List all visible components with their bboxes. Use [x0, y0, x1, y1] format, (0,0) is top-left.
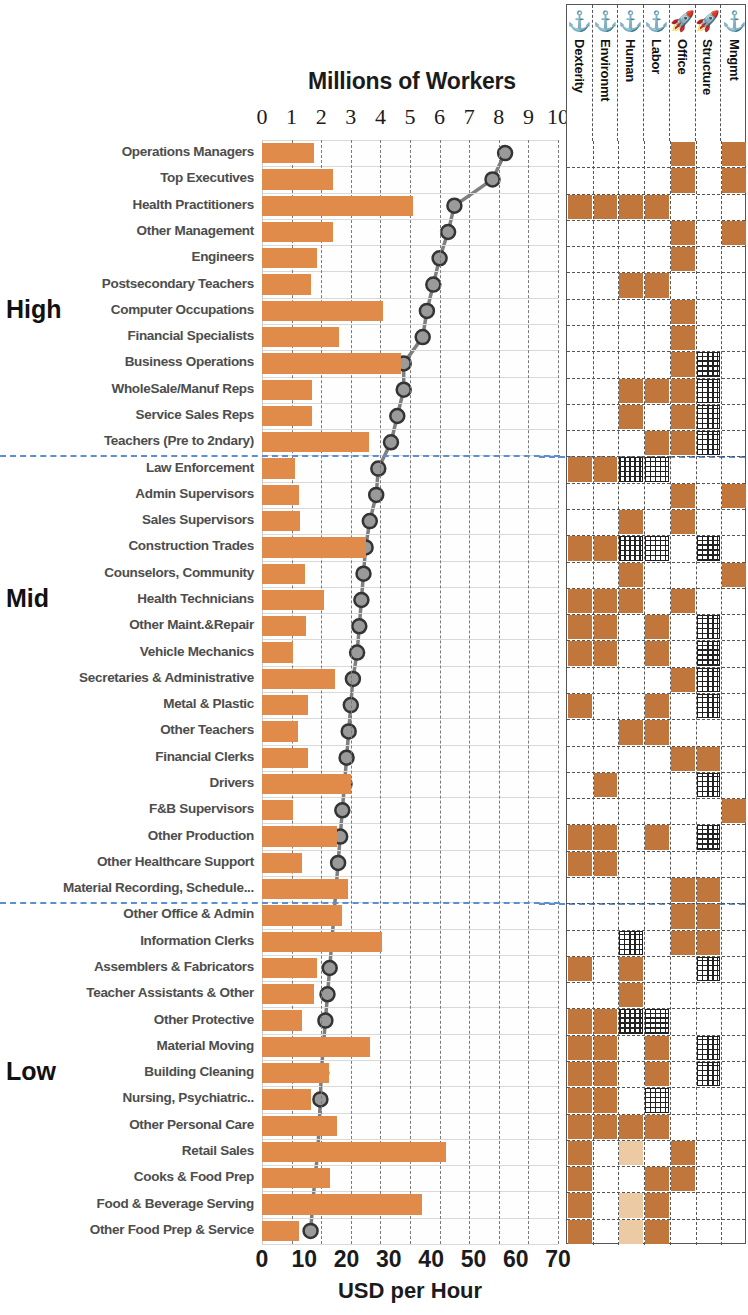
- category-label: Other Food Prep & Service: [0, 1222, 254, 1237]
- attribute-matrix-grid: [567, 141, 745, 1245]
- matrix-column-label: Environmt: [598, 39, 613, 101]
- category-label: Retail Sales: [0, 1143, 254, 1158]
- plot-gridline-vertical: [558, 140, 559, 1244]
- category-label: Assemblers & Fabricators: [0, 959, 254, 974]
- matrix-cell-fill: [645, 1062, 669, 1086]
- category-label: Other Teachers: [0, 722, 254, 737]
- matrix-cell-fill: [722, 168, 746, 192]
- section-divider: [0, 902, 560, 904]
- bar: [262, 642, 293, 662]
- matrix-cell-fill: [568, 1009, 592, 1033]
- matrix-cell-fill-light: [619, 1193, 643, 1217]
- plot-gridline-horizontal: [262, 1244, 558, 1245]
- matrix-cell-fill: [568, 615, 592, 639]
- line-marker: [363, 514, 377, 528]
- matrix-cell-fill: [619, 379, 643, 403]
- bar: [262, 537, 366, 557]
- line-marker: [420, 304, 434, 318]
- category-label: Material Recording, Schedule...: [0, 880, 254, 895]
- bar: [262, 1168, 330, 1188]
- matrix-column-label: Office: [675, 39, 690, 75]
- matrix-cell-fill: [671, 589, 695, 613]
- line-marker: [390, 409, 404, 423]
- attribute-matrix-header: ⚓Dexterity⚓Environmt⚓Human⚓Labor🚀Office🚀…: [567, 5, 745, 141]
- line-marker: [416, 330, 430, 344]
- matrix-cell-fill: [671, 405, 695, 429]
- bar: [262, 800, 293, 820]
- matrix-column-header-labor: ⚓Labor: [644, 5, 670, 141]
- line-marker: [397, 383, 411, 397]
- top-axis-tick: 7: [464, 104, 475, 130]
- category-label: Engineers: [0, 249, 254, 264]
- matrix-column-label: Human: [623, 39, 638, 82]
- top-axis-ticks: 012345678910: [262, 104, 558, 130]
- category-label: Operations Managers: [0, 144, 254, 159]
- bottom-axis-tick: 0: [256, 1246, 269, 1273]
- bar: [262, 853, 302, 873]
- line-marker: [371, 462, 385, 476]
- matrix-cell-fill: [568, 694, 592, 718]
- plot-area: [262, 140, 558, 1244]
- matrix-cell-fill: [568, 1036, 592, 1060]
- anchor-icon: ⚓: [722, 5, 747, 37]
- matrix-cell-fill: [645, 641, 669, 665]
- matrix-cell-fill: [671, 379, 695, 403]
- bar: [262, 1010, 302, 1030]
- bar: [262, 721, 298, 741]
- matrix-cell-fill: [671, 484, 695, 508]
- matrix-cell-fill: [645, 1036, 669, 1060]
- category-label: Metal & Plastic: [0, 696, 254, 711]
- category-label: Business Operations: [0, 354, 254, 369]
- matrix-gridline-horizontal: [567, 982, 745, 983]
- matrix-cell-fill: [568, 1115, 592, 1139]
- matrix-column-label: Dexterity: [572, 39, 587, 93]
- top-axis-tick: 3: [345, 104, 356, 130]
- matrix-cell-fill: [568, 1167, 592, 1191]
- matrix-cell-fill: [645, 1220, 669, 1244]
- bottom-axis-tick: 10: [291, 1246, 317, 1273]
- line-marker: [346, 672, 360, 686]
- category-label: Postsecondary Teachers: [0, 276, 254, 291]
- matrix-cell-fill: [671, 352, 695, 376]
- category-label: Other Maint.&Repair: [0, 617, 254, 632]
- bar: [262, 905, 342, 925]
- matrix-cell-fill: [671, 431, 695, 455]
- bottom-axis-title: USD per Hour: [262, 1278, 558, 1304]
- matrix-gridline-horizontal: [567, 509, 745, 510]
- category-label: Top Executives: [0, 170, 254, 185]
- matrix-cell-fill: [594, 1115, 618, 1139]
- matrix-cell-hatch: [697, 641, 721, 665]
- matrix-cell-fill: [697, 931, 721, 955]
- matrix-cell-fill: [594, 1062, 618, 1086]
- matrix-cell-fill: [645, 195, 669, 219]
- top-axis-title: Millions of Workers: [262, 68, 562, 95]
- matrix-cell-fill: [619, 720, 643, 744]
- matrix-column-header-dexterity: ⚓Dexterity: [567, 5, 593, 141]
- matrix-cell-fill: [671, 1141, 695, 1165]
- matrix-cell-fill: [722, 142, 746, 166]
- matrix-cell-fill: [594, 1036, 618, 1060]
- matrix-cell-fill: [645, 615, 669, 639]
- matrix-cell-hatch: [697, 825, 721, 849]
- matrix-gridline-horizontal: [567, 299, 745, 300]
- line-marker: [384, 435, 398, 449]
- matrix-cell-hatch: [619, 457, 643, 481]
- line-marker: [350, 646, 364, 660]
- bottom-axis-tick: 40: [418, 1246, 444, 1273]
- anchor-icon: ⚓: [593, 5, 618, 37]
- top-axis-tick: 0: [257, 104, 268, 130]
- category-label: Law Enforcement: [0, 460, 254, 475]
- matrix-cell-fill: [671, 931, 695, 955]
- matrix-cell-fill: [619, 1115, 643, 1139]
- matrix-cell-fill: [671, 142, 695, 166]
- bar: [262, 485, 299, 505]
- category-label: Other Production: [0, 828, 254, 843]
- plot-gridline-vertical: [499, 140, 500, 1244]
- bar: [262, 301, 383, 321]
- bar: [262, 169, 333, 189]
- top-axis-tick: 1: [286, 104, 297, 130]
- bar: [262, 274, 311, 294]
- rocket-icon: 🚀: [670, 5, 695, 37]
- plot-gridline-vertical: [410, 140, 411, 1244]
- category-label: Construction Trades: [0, 538, 254, 553]
